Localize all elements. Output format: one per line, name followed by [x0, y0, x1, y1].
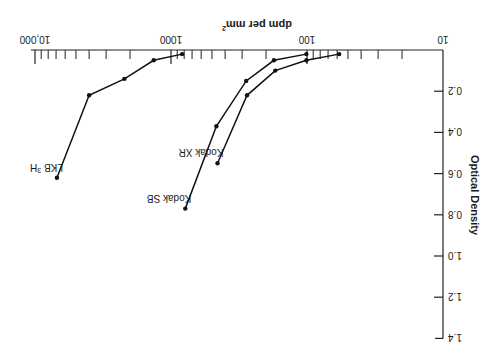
y-axis-title: Optical Density [469, 155, 481, 236]
data-point [122, 77, 126, 81]
y-tick-label: 0.2 [448, 85, 462, 96]
series-kodak-xr: Kodak XR [178, 52, 341, 166]
series-label: LKB 3H [30, 162, 63, 174]
y-tick-label: 1.4 [448, 332, 462, 343]
series-line [218, 54, 340, 163]
y-tick-label: 1.2 [448, 291, 462, 302]
data-point [272, 58, 276, 62]
y-tick-label: 0.4 [448, 126, 462, 137]
data-point [183, 206, 187, 210]
optical-density-chart: 10100100010,0000.20.40.60.81.01.21.4 Kod… [0, 0, 499, 360]
x-tick-label: 1000 [159, 34, 182, 45]
data-point [245, 93, 249, 97]
series-lkb-h: LKB 3H [30, 52, 184, 180]
series-label: Kodak SB [146, 193, 191, 204]
series-line [57, 54, 182, 178]
x-axis-title: dpm per mm2 [222, 19, 292, 32]
data-point [214, 124, 218, 128]
series-label: Kodak XR [178, 147, 223, 158]
y-tick-label: 0.6 [448, 168, 462, 179]
data-point [337, 52, 341, 56]
data-point [55, 176, 59, 180]
axis-ticks: 10100100010,0000.20.40.60.81.01.21.4 [19, 34, 462, 343]
series-kodak-sb: Kodak SB [146, 52, 308, 211]
series-line [185, 54, 306, 209]
data-point [87, 93, 91, 97]
y-tick-label: 1.0 [448, 250, 462, 261]
x-tick-label: 10 [437, 34, 449, 45]
data-series: Kodak XRKodak SBLKB 3H [30, 52, 341, 211]
x-tick-label: 100 [298, 34, 315, 45]
data-point [244, 79, 248, 83]
rotated-chart-stage: 10100100010,0000.20.40.60.81.01.21.4 Kod… [0, 0, 499, 360]
data-point [215, 161, 219, 165]
data-point [152, 58, 156, 62]
data-point [304, 58, 308, 62]
data-point [180, 52, 184, 56]
data-point [304, 52, 308, 56]
y-tick-label: 0.8 [448, 209, 462, 220]
data-point [273, 68, 277, 72]
x-tick-label: 10,000 [19, 34, 50, 45]
